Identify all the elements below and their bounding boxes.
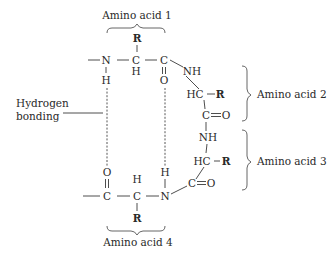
aa3-n-ca-bond — [206, 144, 207, 153]
amino-acid-1-label: Amino acid 1 — [101, 9, 172, 21]
amino-acid-2-label: Amino acid 2 — [256, 88, 327, 100]
amino-acid-2-brace — [242, 66, 251, 121]
aa1-nitrogen: N — [101, 54, 110, 66]
aa3-aa4-peptide-bond — [171, 186, 187, 194]
aa1-aa2-peptide-bond — [170, 60, 183, 67]
aa4-alpha-hydrogen: H — [132, 173, 141, 185]
aa3-carbonyl-carbon: C — [188, 177, 196, 189]
aa4-r-group: R — [133, 212, 142, 224]
aa3-carbonyl-oxygen: O — [207, 177, 216, 189]
aa1-alpha-hydrogen: H — [131, 65, 140, 77]
aa3-amide-nh: NH — [199, 131, 217, 143]
aa2-alpha-ch: HC — [186, 88, 203, 100]
aa2-carbonyl-carbon: C — [202, 109, 210, 121]
aa4-nitrogen: N — [160, 190, 169, 202]
hydrogen-bonding-label-line2: bonding — [16, 110, 60, 122]
amino-acid-4-brace — [107, 226, 165, 235]
amino-acid-hydrogen-bonding-diagram: Amino acid 1 R N C C H H O NH HC R C O A… — [0, 0, 331, 256]
aa1-carbonyl-carbon: C — [160, 54, 168, 66]
aa2-ca-c-bond — [204, 100, 205, 109]
aa4-amide-hydrogen: H — [160, 166, 169, 178]
aa2-carbonyl-oxygen: O — [222, 109, 231, 121]
aa1-carbonyl-oxygen: O — [160, 74, 169, 86]
aa3-alpha-ch: HC — [193, 155, 210, 167]
aa1-amide-hydrogen: H — [101, 74, 110, 86]
aa3-r-group: R — [222, 155, 231, 167]
aa4-carbonyl-oxygen: O — [103, 166, 112, 178]
aa2-amide-nh: NH — [183, 65, 201, 77]
aa1-r-group: R — [133, 32, 142, 44]
amino-acid-3-label: Amino acid 3 — [256, 155, 327, 167]
aa2-r-group: R — [216, 88, 225, 100]
hydrogen-bonding-label-line1: Hydrogen — [16, 97, 69, 109]
aa3-ca-c-bond — [196, 167, 204, 179]
amino-acid-3-brace — [242, 130, 251, 190]
aa4-carbonyl-carbon: C — [103, 190, 111, 202]
aa4-alpha-carbon: C — [133, 190, 141, 202]
amino-acid-4-label: Amino acid 4 — [102, 236, 173, 248]
